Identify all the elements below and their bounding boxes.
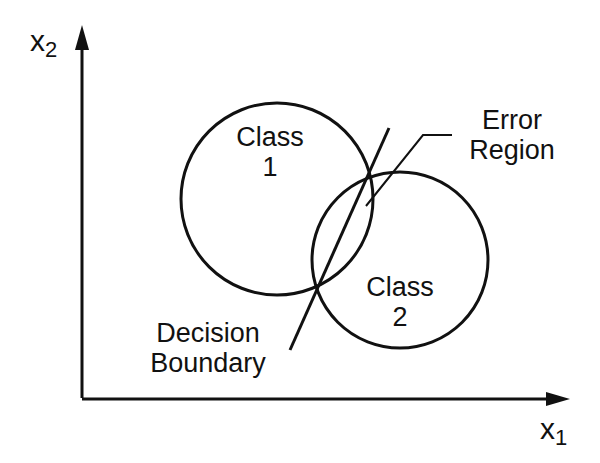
error-region-label-line1: Error bbox=[452, 105, 572, 135]
decision-boundary-label: Decision Boundary bbox=[128, 318, 288, 378]
x-axis-label-subscript: 1 bbox=[555, 425, 567, 450]
class-2-label: Class 2 bbox=[350, 272, 450, 332]
error-region-label-line2: Region bbox=[452, 135, 572, 165]
y-axis-arrowhead bbox=[75, 25, 89, 50]
error-region-label: Error Region bbox=[452, 105, 572, 165]
diagram-canvas bbox=[0, 0, 600, 463]
y-axis-label: x2 bbox=[30, 24, 57, 58]
decision-boundary-label-line1: Decision bbox=[128, 318, 288, 348]
y-axis-label-text: x bbox=[30, 24, 45, 57]
class-2-label-line2: 2 bbox=[350, 302, 450, 332]
class-1-label: Class 1 bbox=[220, 122, 320, 182]
y-axis-label-subscript: 2 bbox=[45, 37, 57, 62]
x-axis-arrowhead bbox=[546, 392, 570, 406]
class-2-label-line1: Class bbox=[350, 272, 450, 302]
x-axis-label-text: x bbox=[540, 412, 555, 445]
x-axis-label: x1 bbox=[540, 412, 567, 446]
error-region-leader bbox=[366, 135, 452, 206]
class-1-label-line1: Class bbox=[220, 122, 320, 152]
class-1-label-line2: 1 bbox=[220, 152, 320, 182]
decision-boundary-label-line2: Boundary bbox=[128, 348, 288, 378]
